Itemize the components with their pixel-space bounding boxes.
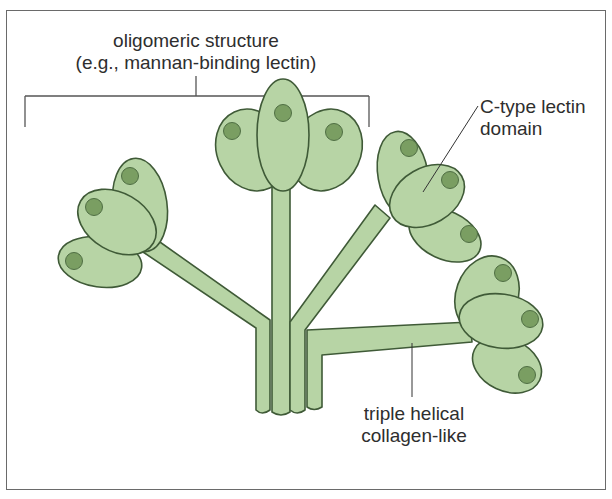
collagen-label: triple helical collagen-like	[354, 403, 474, 447]
collagen-label-line2: collagen-like	[354, 425, 474, 447]
lectin-head-right-upper	[371, 127, 490, 272]
lectin-domain-label: C-type lectin domain	[480, 96, 586, 140]
lectin-label-line1: C-type lectin	[480, 96, 586, 118]
lectin-label-line2: domain	[480, 118, 586, 140]
lectin-head-center	[203, 79, 376, 203]
mbl-structure-diagram	[0, 0, 612, 499]
oligomer-label-line2: (e.g., mannan-binding lectin)	[68, 52, 324, 74]
oligomer-label: oligomeric structure (e.g., mannan-bindi…	[68, 30, 324, 74]
collagen-label-line1: triple helical	[354, 403, 474, 425]
lectin-head-left	[55, 155, 173, 293]
oligomer-label-line1: oligomeric structure	[68, 30, 324, 52]
